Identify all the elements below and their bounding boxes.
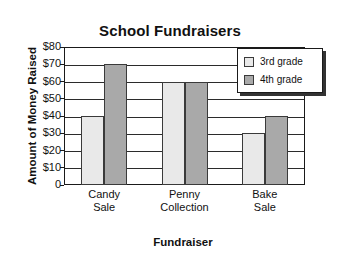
legend-swatch-icon-3rd-grade <box>244 57 254 67</box>
y-axis-tick-label: $80 <box>15 40 61 52</box>
y-axis-tick-mark <box>60 133 64 134</box>
y-axis-tick-label: $50 <box>15 92 61 104</box>
bar <box>81 116 104 185</box>
y-axis-tick-mark <box>60 47 64 48</box>
y-axis-tick-label: $40 <box>15 109 61 121</box>
y-axis-tick-label: $10 <box>15 161 61 173</box>
legend-label-4th-grade: 4th grade <box>260 74 302 85</box>
bar <box>265 116 288 185</box>
x-axis-category-label: BakeSale <box>225 188 305 213</box>
bar <box>185 82 208 186</box>
y-axis-tick-label: $60 <box>15 75 61 87</box>
chart-title: School Fundraisers <box>60 22 280 39</box>
legend-label-3rd-grade: 3rd grade <box>260 56 303 67</box>
y-axis-tick-mark <box>60 64 64 65</box>
y-axis-tick-label: $70 <box>15 57 61 69</box>
legend-item-3rd-grade[interactable]: 3rd grade <box>244 54 316 69</box>
y-axis-tick-mark <box>60 167 64 168</box>
x-axis-title: Fundraiser <box>60 236 306 248</box>
y-axis-tick-mark <box>60 150 64 151</box>
x-axis-category-label: CandySale <box>64 188 144 213</box>
y-axis-tick-label: $20 <box>15 144 61 156</box>
y-axis-tick-mark <box>60 98 64 99</box>
legend: 3rd grade 4th grade <box>237 48 323 93</box>
y-axis-tick-mark <box>60 81 64 82</box>
bar-chart: School Fundraisers Amount of Money Raise… <box>0 0 340 268</box>
legend-item-4th-grade[interactable]: 4th grade <box>244 72 316 87</box>
y-axis-tick-label: $30 <box>15 126 61 138</box>
y-axis-tick-mark <box>60 185 64 186</box>
x-axis-category-label: PennyCollection <box>144 188 224 213</box>
bar <box>242 133 265 185</box>
bar <box>162 82 185 186</box>
y-axis-tick-mark <box>60 116 64 117</box>
y-axis-tick-label: 0 <box>15 178 61 190</box>
bar <box>104 64 127 185</box>
legend-swatch-icon-4th-grade <box>244 75 254 85</box>
